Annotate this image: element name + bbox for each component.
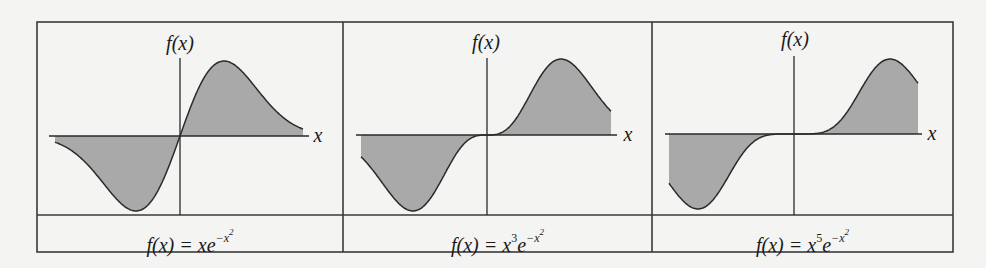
y-axis-label: f(x) [166,32,194,55]
x-axis-label: x [623,123,633,145]
formula-base: xe [198,234,216,256]
formula-panel-2: f(x) = x3e−x2 [343,222,652,250]
y-axis-label: f(x) [781,28,809,51]
y-axis-label: f(x) [472,31,500,54]
graph-panel-2: f(x) x [356,31,633,215]
formula-e: e [822,234,831,256]
formula-base: x [807,234,816,256]
formula-exp-power: 2 [229,227,234,237]
formula-exp-prefix: −x [216,231,229,245]
formula-x-power: 5 [816,231,822,245]
formula-x-power: 3 [511,231,517,245]
formula-exp-power: 2 [844,227,849,237]
formula-exp-power: 2 [539,227,544,237]
formula-exp-prefix: −x [526,231,539,245]
formula-base: x [502,234,511,256]
formula-lhs: f(x) = [451,234,502,256]
x-axis-label: x [927,122,937,144]
x-axis-label: x [313,124,323,146]
formula-lhs: f(x) = [147,234,198,256]
graph-panel-3: f(x) x [665,28,937,215]
formula-panel-1: f(x) = xe−x2 [37,222,343,250]
formula-panel-3: f(x) = x5e−x2 [652,222,953,250]
formula-exp-prefix: −x [831,231,844,245]
graph-panel-1: f(x) x [49,32,323,215]
formula-lhs: f(x) = [756,234,807,256]
formula-e: e [517,234,526,256]
